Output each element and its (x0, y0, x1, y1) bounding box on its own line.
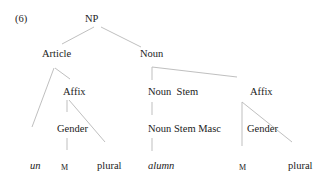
edge-noun-children (152, 67, 237, 80)
edge-article-affix (55, 68, 70, 79)
node-article: Article (42, 48, 71, 60)
node-affix-right: Affix (250, 86, 273, 98)
leaf-m-left: M (61, 162, 68, 174)
leaf-alumn: alumn (148, 160, 174, 172)
node-gender-right: Gender (247, 123, 278, 135)
node-gender-left: Gender (57, 123, 88, 135)
node-noun-stem-masc: Noun Stem Masc (148, 123, 221, 135)
leaf-un: un (30, 160, 41, 172)
node-affix-left: Affix (63, 86, 86, 98)
edge-np-article (62, 27, 94, 44)
example-number: (6) (15, 13, 27, 25)
edge-np-noun (101, 27, 141, 47)
node-noun: Noun (140, 48, 163, 60)
edge-affix-plural-left (69, 100, 105, 142)
leaf-plural-left: plural (97, 160, 122, 172)
node-noun-stem: Noun Stem (148, 86, 198, 98)
leaf-m-right: M (239, 162, 246, 174)
node-np: NP (85, 13, 98, 25)
leaf-plural-right: plural (288, 160, 313, 172)
edge-article-un (32, 68, 54, 127)
